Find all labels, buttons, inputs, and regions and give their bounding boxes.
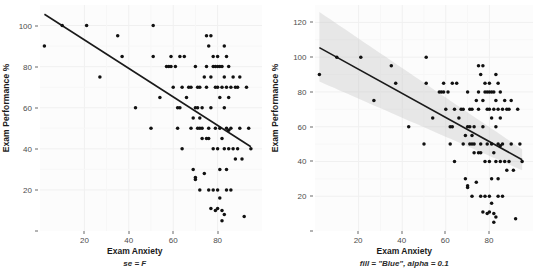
data-point — [520, 160, 524, 164]
y-tick-label: 100 — [293, 53, 306, 62]
data-point — [196, 106, 200, 110]
data-point — [424, 55, 428, 59]
data-point — [176, 127, 180, 131]
data-point — [393, 81, 397, 85]
data-point — [496, 108, 500, 112]
data-point — [180, 85, 184, 89]
data-point — [470, 134, 474, 138]
data-point — [474, 99, 478, 103]
data-point — [178, 55, 182, 59]
data-point — [169, 65, 173, 69]
data-point — [446, 90, 450, 94]
data-point — [229, 127, 233, 131]
data-point — [134, 106, 138, 110]
data-point — [465, 90, 469, 94]
data-point — [234, 157, 238, 161]
x-axis-ticklabels-left: 20406080 — [0, 231, 270, 247]
data-point — [200, 137, 204, 141]
data-point — [494, 73, 498, 77]
x-axis-title-right: Exam Anxiety — [270, 246, 539, 256]
data-point — [476, 90, 480, 94]
data-point — [498, 90, 502, 94]
data-point — [496, 177, 500, 181]
data-point — [200, 106, 204, 110]
data-point — [227, 96, 231, 100]
data-point — [218, 196, 222, 200]
data-point — [450, 81, 454, 85]
data-point — [211, 147, 215, 151]
x-tick-label: 20 — [80, 236, 89, 245]
data-point — [489, 142, 493, 146]
data-point — [481, 99, 485, 103]
data-point — [494, 215, 498, 219]
data-point — [483, 160, 487, 164]
data-point — [487, 160, 491, 164]
data-point — [180, 147, 184, 151]
data-point — [191, 168, 195, 172]
data-point — [492, 90, 496, 94]
data-point — [465, 186, 469, 190]
data-point — [489, 116, 493, 120]
y-tick-mark — [310, 161, 313, 162]
data-point — [500, 142, 504, 146]
data-point — [498, 116, 502, 120]
data-point — [454, 81, 458, 85]
data-point — [448, 142, 452, 146]
data-point — [518, 142, 522, 146]
data-point — [485, 142, 489, 146]
y-tick-mark — [310, 126, 313, 127]
data-point — [240, 157, 244, 161]
data-point — [478, 142, 482, 146]
data-point — [238, 75, 242, 79]
plot-canvas — [315, 5, 533, 231]
data-point — [236, 85, 240, 89]
data-point — [216, 147, 220, 151]
data-point — [151, 55, 155, 59]
data-point — [492, 212, 496, 216]
x-tick-mark — [445, 231, 446, 234]
data-point — [209, 75, 213, 79]
data-point — [249, 147, 253, 151]
data-point — [487, 194, 491, 198]
data-point — [500, 108, 504, 112]
data-point — [207, 44, 211, 48]
data-point — [203, 172, 207, 176]
data-point — [198, 116, 202, 120]
data-point — [158, 96, 162, 100]
data-point — [218, 96, 222, 100]
data-point — [463, 177, 467, 181]
data-point — [225, 188, 229, 192]
y-tick-label: 80 — [298, 87, 307, 96]
data-point — [483, 194, 487, 198]
data-point — [476, 64, 480, 68]
x-axis-title-left: Exam Anxiety — [0, 246, 270, 256]
data-point — [492, 221, 496, 225]
data-point — [487, 81, 491, 85]
y-tick-mark — [310, 91, 313, 92]
y-tick-mark — [35, 66, 38, 67]
y-tick-mark — [310, 22, 313, 23]
data-point — [247, 127, 251, 131]
data-point — [478, 151, 482, 155]
data-point — [214, 127, 218, 131]
data-point — [430, 116, 434, 120]
data-point — [229, 188, 233, 192]
data-point — [205, 34, 209, 38]
data-point — [223, 147, 227, 151]
data-point — [189, 127, 193, 131]
data-point — [207, 137, 211, 141]
x-tick-label: 20 — [354, 236, 363, 245]
data-point — [205, 65, 209, 69]
data-point — [478, 194, 482, 198]
data-point — [231, 147, 235, 151]
data-point — [223, 75, 227, 79]
data-point — [211, 188, 215, 192]
data-point — [242, 215, 246, 219]
data-point — [472, 151, 476, 155]
y-tick-label: 40 — [298, 157, 307, 166]
data-point — [492, 151, 496, 155]
data-point — [220, 219, 224, 223]
x-tick-label: 40 — [124, 236, 133, 245]
data-point — [194, 65, 198, 69]
figure-root: Exam Performance % 20406080100 20406080 … — [0, 0, 539, 275]
